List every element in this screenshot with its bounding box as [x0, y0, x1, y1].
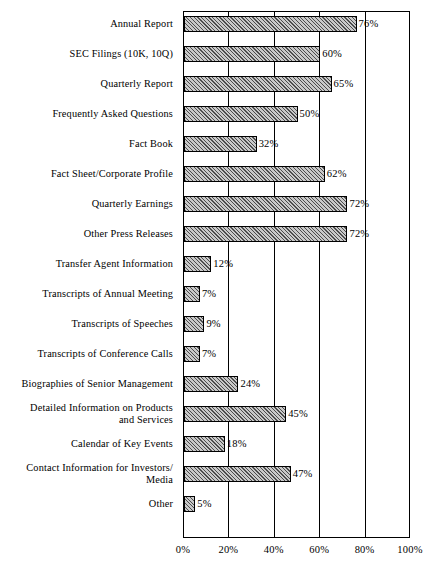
chart-row: Other Press Releases72%: [0, 219, 432, 249]
category-label: Quarterly Earnings: [0, 189, 178, 219]
chart-row: Biographies of Senior Management24%: [0, 369, 432, 399]
category-label-line: Contact Information for Investors/: [26, 462, 173, 474]
chart-row: Frequently Asked Questions50%: [0, 99, 432, 129]
chart-row: Quarterly Earnings72%: [0, 189, 432, 219]
bar-value-label: 65%: [334, 76, 354, 92]
category-label-line: and Services: [119, 414, 173, 426]
bar-value-label: 5%: [197, 496, 211, 512]
category-label-line: Other: [149, 498, 173, 510]
category-label: SEC Filings (10K, 10Q): [0, 39, 178, 69]
bar: [184, 286, 200, 302]
category-label-line: Quarterly Earnings: [92, 198, 173, 210]
bar-value-label: 50%: [300, 106, 320, 122]
category-label: Other: [0, 489, 178, 519]
category-label-line: Transcripts of Speeches: [72, 318, 173, 330]
x-tick-label: 60%: [309, 542, 329, 558]
bar-value-label: 62%: [327, 166, 347, 182]
chart-row: Fact Book32%: [0, 129, 432, 159]
bar-value-label: 47%: [293, 466, 313, 482]
category-label-line: Fact Book: [129, 138, 173, 150]
category-label-line: Biographies of Senior Management: [22, 378, 174, 390]
category-label: Contact Information for Investors/Media: [0, 459, 178, 489]
chart-row: Quarterly Report65%: [0, 69, 432, 99]
x-tick-label: 80%: [355, 542, 375, 558]
bar: [184, 166, 325, 182]
bar-value-label: 32%: [259, 136, 279, 152]
category-label-line: Quarterly Report: [101, 78, 173, 90]
category-label-line: Frequently Asked Questions: [52, 108, 173, 120]
bar: [184, 106, 298, 122]
bar: [184, 436, 225, 452]
category-label-line: Transfer Agent Information: [56, 258, 173, 270]
bar: [184, 76, 332, 92]
chart-row: Transcripts of Annual Meeting7%: [0, 279, 432, 309]
category-label-line: Detailed Information on Products: [30, 402, 173, 414]
bar-value-label: 76%: [359, 16, 379, 32]
chart-row: Fact Sheet/Corporate Profile62%: [0, 159, 432, 189]
x-tick-label: 40%: [264, 542, 284, 558]
x-tick-label: 0%: [176, 542, 190, 558]
category-label-line: Fact Sheet/Corporate Profile: [51, 168, 173, 180]
bar-value-label: 7%: [202, 346, 216, 362]
chart-row: Transcripts of Conference Calls7%: [0, 339, 432, 369]
chart-row: Annual Report76%: [0, 9, 432, 39]
chart-row: Calendar of Key Events18%: [0, 429, 432, 459]
bar: [184, 136, 257, 152]
bar: [184, 196, 347, 212]
category-label: Transcripts of Speeches: [0, 309, 178, 339]
category-label: Transcripts of Annual Meeting: [0, 279, 178, 309]
bar-value-label: 45%: [288, 406, 308, 422]
bar: [184, 466, 291, 482]
category-label: Biographies of Senior Management: [0, 369, 178, 399]
bar-value-label: 72%: [349, 226, 369, 242]
bar-value-label: 72%: [349, 196, 369, 212]
category-label-line: Transcripts of Annual Meeting: [42, 288, 173, 300]
category-label-line: Transcripts of Conference Calls: [37, 348, 173, 360]
chart-row: Transcripts of Speeches9%: [0, 309, 432, 339]
category-label: Annual Report: [0, 9, 178, 39]
category-label: Transcripts of Conference Calls: [0, 339, 178, 369]
category-label: Frequently Asked Questions: [0, 99, 178, 129]
bar-chart-figure: Annual Report76%SEC Filings (10K, 10Q)60…: [0, 0, 432, 576]
category-label-line: Calendar of Key Events: [71, 438, 173, 450]
chart-row: Transfer Agent Information12%: [0, 249, 432, 279]
category-label: Fact Book: [0, 129, 178, 159]
category-label: Calendar of Key Events: [0, 429, 178, 459]
category-label: Fact Sheet/Corporate Profile: [0, 159, 178, 189]
category-label: Detailed Information on Productsand Serv…: [0, 399, 178, 429]
category-label-line: Other Press Releases: [84, 228, 173, 240]
bar: [184, 226, 347, 242]
bar-value-label: 60%: [322, 46, 342, 62]
chart-row: Detailed Information on Productsand Serv…: [0, 399, 432, 429]
x-tick-label: 100%: [397, 542, 422, 558]
bar-value-label: 18%: [227, 436, 247, 452]
category-label-line: SEC Filings (10K, 10Q): [70, 48, 173, 60]
x-axis-tick-labels: 0%20%40%60%80%100%: [0, 542, 432, 560]
category-label: Quarterly Report: [0, 69, 178, 99]
bar-value-label: 9%: [206, 316, 220, 332]
bar: [184, 376, 238, 392]
bar: [184, 46, 320, 62]
bar-value-label: 24%: [240, 376, 260, 392]
category-label-line: Media: [146, 474, 173, 486]
chart-row: Contact Information for Investors/Media4…: [0, 459, 432, 489]
bar: [184, 346, 200, 362]
bar: [184, 316, 204, 332]
bar-value-label: 12%: [213, 256, 233, 272]
chart-row: SEC Filings (10K, 10Q)60%: [0, 39, 432, 69]
chart-row: Other5%: [0, 489, 432, 519]
category-label: Other Press Releases: [0, 219, 178, 249]
x-tick-label: 20%: [218, 542, 238, 558]
category-label-line: Annual Report: [110, 18, 173, 30]
bar: [184, 16, 357, 32]
bar-value-label: 7%: [202, 286, 216, 302]
bar: [184, 406, 286, 422]
bar: [184, 496, 195, 512]
category-label: Transfer Agent Information: [0, 249, 178, 279]
bar: [184, 256, 211, 272]
